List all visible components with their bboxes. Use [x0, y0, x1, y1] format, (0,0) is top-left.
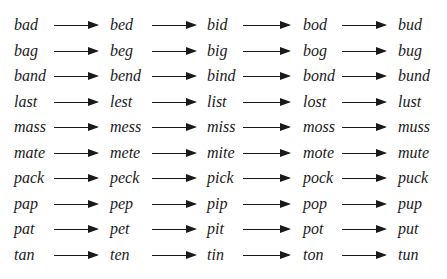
ladder-row: pack peck pick pock puck — [0, 165, 447, 191]
right-arrow-icon — [54, 178, 97, 179]
word: mite — [207, 140, 235, 165]
right-arrow-icon — [152, 76, 195, 77]
word: put — [398, 216, 418, 241]
right-arrow-icon — [243, 255, 289, 256]
word: lost — [303, 89, 326, 114]
word: mote — [303, 140, 334, 165]
right-arrow-icon — [152, 25, 195, 26]
vowel-change-word-ladder: bad bed bid bod bud bag beg big bog bug … — [0, 12, 447, 267]
word: mute — [398, 140, 429, 165]
right-arrow-icon — [243, 102, 289, 103]
ladder-row: last lest list lost lust — [0, 89, 447, 115]
right-arrow-icon — [54, 229, 97, 230]
word: pup — [398, 191, 422, 216]
right-arrow-icon — [152, 127, 195, 128]
word: pop — [303, 191, 327, 216]
word: pit — [207, 216, 224, 241]
word: pot — [303, 216, 323, 241]
right-arrow-icon — [342, 229, 385, 230]
word: last — [14, 89, 37, 114]
word: bog — [303, 38, 327, 63]
ladder-row: band bend bind bond bund — [0, 63, 447, 89]
word: bed — [110, 12, 133, 37]
ladder-row: bag beg big bog bug — [0, 38, 447, 64]
word: tan — [14, 242, 34, 267]
right-arrow-icon — [152, 229, 195, 230]
word: bag — [14, 38, 38, 63]
word: ton — [303, 242, 323, 267]
ladder-row: bad bed bid bod bud — [0, 12, 447, 38]
right-arrow-icon — [243, 51, 289, 52]
ladder-row: pap pep pip pop pup — [0, 191, 447, 217]
word: list — [207, 89, 227, 114]
right-arrow-icon — [54, 204, 97, 205]
word: pack — [14, 165, 44, 190]
right-arrow-icon — [342, 25, 385, 26]
right-arrow-icon — [342, 127, 385, 128]
word: muss — [398, 114, 430, 139]
right-arrow-icon — [152, 204, 195, 205]
right-arrow-icon — [54, 102, 97, 103]
word: bond — [303, 63, 335, 88]
right-arrow-icon — [342, 51, 385, 52]
word: pock — [303, 165, 333, 190]
right-arrow-icon — [54, 255, 97, 256]
right-arrow-icon — [243, 178, 289, 179]
right-arrow-icon — [243, 25, 289, 26]
word: tin — [207, 242, 224, 267]
word: beg — [110, 38, 133, 63]
right-arrow-icon — [54, 51, 97, 52]
word: bund — [398, 63, 430, 88]
right-arrow-icon — [342, 153, 385, 154]
right-arrow-icon — [243, 153, 289, 154]
word: mete — [110, 140, 140, 165]
word: mass — [14, 114, 46, 139]
word: peck — [110, 165, 139, 190]
right-arrow-icon — [243, 76, 289, 77]
word: bind — [207, 63, 235, 88]
right-arrow-icon — [342, 102, 385, 103]
right-arrow-icon — [152, 178, 195, 179]
right-arrow-icon — [54, 25, 97, 26]
word: miss — [207, 114, 235, 139]
word: pick — [207, 165, 234, 190]
word: pap — [14, 191, 38, 216]
word: bud — [398, 12, 422, 37]
right-arrow-icon — [342, 178, 385, 179]
ladder-row: pat pet pit pot put — [0, 216, 447, 242]
word: pet — [110, 216, 130, 241]
right-arrow-icon — [342, 204, 385, 205]
word: pat — [14, 216, 34, 241]
word: bad — [14, 12, 38, 37]
right-arrow-icon — [152, 51, 195, 52]
right-arrow-icon — [54, 76, 97, 77]
word: pip — [207, 191, 227, 216]
word: bend — [110, 63, 141, 88]
ladder-row: tan ten tin ton tun — [0, 242, 447, 268]
word: moss — [303, 114, 335, 139]
word: bod — [303, 12, 327, 37]
right-arrow-icon — [243, 229, 289, 230]
word: mate — [14, 140, 45, 165]
right-arrow-icon — [152, 102, 195, 103]
ladder-row: mass mess miss moss muss — [0, 114, 447, 140]
right-arrow-icon — [342, 255, 385, 256]
word: bid — [207, 12, 227, 37]
right-arrow-icon — [152, 153, 195, 154]
word: mess — [110, 114, 141, 139]
right-arrow-icon — [243, 204, 289, 205]
right-arrow-icon — [54, 153, 97, 154]
word: pep — [110, 191, 133, 216]
word: bug — [398, 38, 422, 63]
word: big — [207, 38, 227, 63]
word: tun — [398, 242, 418, 267]
word: lest — [110, 89, 132, 114]
ladder-row: mate mete mite mote mute — [0, 140, 447, 166]
right-arrow-icon — [54, 127, 97, 128]
right-arrow-icon — [243, 127, 289, 128]
word: band — [14, 63, 46, 88]
word: puck — [398, 165, 428, 190]
right-arrow-icon — [152, 255, 195, 256]
word: ten — [110, 242, 130, 267]
right-arrow-icon — [342, 76, 385, 77]
